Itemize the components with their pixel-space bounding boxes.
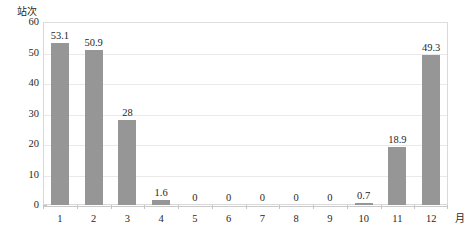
x-axis-tick-mark bbox=[178, 205, 179, 209]
bar-group[interactable]: 50.9 bbox=[77, 22, 111, 205]
x-axis-tick-label: 7 bbox=[260, 213, 265, 225]
bar-group[interactable]: 0 bbox=[246, 22, 280, 205]
x-axis-tick-label: 10 bbox=[358, 213, 369, 225]
x-axis-tick-mark bbox=[111, 205, 112, 209]
x-axis-tick-mark bbox=[77, 205, 78, 209]
x-axis-unit-label: 月 bbox=[455, 213, 465, 225]
y-axis-tick-label: 0 bbox=[13, 200, 39, 210]
x-axis-tick-label: 2 bbox=[91, 213, 96, 225]
x-axis-tick-label: 8 bbox=[294, 213, 299, 225]
x-axis-tick-label: 5 bbox=[192, 213, 197, 225]
y-axis-tick-label: 30 bbox=[13, 109, 39, 119]
x-axis-tick-mark bbox=[43, 205, 44, 209]
y-axis-tick-label: 10 bbox=[13, 170, 39, 180]
y-axis-tick-label: 60 bbox=[13, 17, 39, 27]
bar-chart: 站次 0102030405060 53.150.9281.6000000.718… bbox=[0, 0, 468, 241]
bar[interactable] bbox=[51, 43, 69, 205]
x-axis-tick-label: 3 bbox=[125, 213, 130, 225]
y-axis-tick-label: 40 bbox=[13, 78, 39, 88]
bar-value-label: 0 bbox=[327, 192, 332, 203]
bar-group[interactable]: 53.1 bbox=[43, 22, 77, 205]
x-axis: 月 123456789101112 bbox=[43, 205, 448, 241]
bar-value-label: 0 bbox=[260, 192, 265, 203]
bar-group[interactable]: 0.7 bbox=[347, 22, 381, 205]
bar-value-label: 0 bbox=[192, 192, 197, 203]
x-axis-tick-label: 9 bbox=[327, 213, 332, 225]
x-axis-tick-label: 6 bbox=[226, 213, 231, 225]
bar[interactable] bbox=[388, 147, 406, 205]
bar-group[interactable]: 28 bbox=[111, 22, 145, 205]
bar-value-label: 0 bbox=[226, 192, 231, 203]
x-axis-tick-label: 1 bbox=[57, 213, 62, 225]
x-axis-tick-mark bbox=[212, 205, 213, 209]
x-axis-tick-label: 4 bbox=[159, 213, 164, 225]
bar-value-label: 18.9 bbox=[388, 134, 406, 145]
bar-group[interactable]: 1.6 bbox=[144, 22, 178, 205]
bar-value-label: 53.1 bbox=[51, 30, 69, 41]
bar-group[interactable]: 0 bbox=[279, 22, 313, 205]
bar-group[interactable]: 18.9 bbox=[381, 22, 415, 205]
x-axis-tick-mark bbox=[313, 205, 314, 209]
bar-value-label: 0 bbox=[294, 192, 299, 203]
bar-value-label: 50.9 bbox=[84, 37, 102, 48]
y-axis-tick-label: 50 bbox=[13, 48, 39, 58]
x-axis-tick-mark bbox=[381, 205, 382, 209]
bar[interactable] bbox=[422, 55, 440, 205]
bar-value-label: 0.7 bbox=[357, 190, 370, 201]
x-axis-tick-mark bbox=[447, 205, 448, 209]
x-axis-tick-mark bbox=[144, 205, 145, 209]
x-axis-tick-label: 12 bbox=[426, 213, 437, 225]
x-axis-tick-mark bbox=[279, 205, 280, 209]
bar-group[interactable]: 0 bbox=[313, 22, 347, 205]
x-axis-tick-mark bbox=[246, 205, 247, 209]
bar[interactable] bbox=[85, 50, 103, 205]
bar-value-label: 28 bbox=[122, 107, 133, 118]
x-axis-tick-mark bbox=[414, 205, 415, 209]
bar-group[interactable]: 0 bbox=[212, 22, 246, 205]
bar-group[interactable]: 49.3 bbox=[414, 22, 448, 205]
bar-group[interactable]: 0 bbox=[178, 22, 212, 205]
x-axis-tick-mark bbox=[347, 205, 348, 209]
bar[interactable] bbox=[118, 120, 136, 205]
bar-value-label: 49.3 bbox=[422, 42, 440, 53]
bar-value-label: 1.6 bbox=[155, 187, 168, 198]
bars-layer: 53.150.9281.6000000.718.949.3 bbox=[43, 22, 448, 205]
x-axis-tick-label: 11 bbox=[392, 213, 402, 225]
y-axis-tick-label: 20 bbox=[13, 139, 39, 149]
y-axis-tick-labels: 0102030405060 bbox=[12, 0, 39, 241]
